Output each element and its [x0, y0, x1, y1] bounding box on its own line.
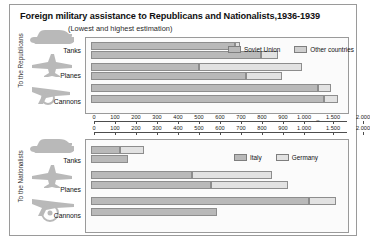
legend-swatch-other-countries: [294, 46, 307, 53]
bar-planes-high-other: [246, 72, 282, 80]
axis-tick-label: 700: [236, 114, 245, 120]
axis-tick-label: 500: [194, 125, 203, 131]
bar-cannons-high-other: [324, 95, 338, 103]
x-axis-nationalists: 0 100 200 300 400 500 600 700 800 900 1.…: [85, 126, 349, 140]
axis-tick-label: 2.000: [356, 114, 370, 120]
legend-label-soviet-union: Soviet Union: [244, 46, 280, 53]
legend-item-other-countries: Other countries: [294, 46, 354, 53]
axis-tick-label: 1.000: [297, 125, 311, 131]
legend-item-soviet-union: Soviet Union: [228, 46, 280, 53]
legend-label-germany: Germany: [292, 154, 318, 161]
bar-cannons-low-other: [318, 84, 331, 92]
legend-swatch-germany: [276, 154, 289, 161]
bar-planes-low-other: [199, 63, 302, 71]
bar-tanks-low-italy: [91, 146, 120, 154]
axis-tick-label: 500: [194, 114, 203, 120]
axis-break-mark: ≈: [316, 118, 319, 124]
bar-planes-low-italy: [91, 171, 192, 179]
bar-cannons-low-italy: [91, 197, 309, 205]
axis-tick-label: 800: [257, 114, 266, 120]
bar-cannons-low-germany: [309, 197, 336, 205]
bar-planes-high-germany: [211, 181, 288, 189]
axis-tick-label: 900: [278, 125, 287, 131]
chart-subtitle: (Lowest and highest estimation): [68, 24, 172, 33]
legend-swatch-soviet-union: [228, 46, 241, 53]
axis-tick-label: 600: [215, 125, 224, 131]
bar-tanks-high-italy: [91, 155, 128, 163]
axis-tick-label: 200: [131, 114, 140, 120]
group-label-nationalists: To the Nationalists: [17, 141, 24, 213]
category-label-cannons: Cannons: [28, 98, 81, 105]
axis-tick-label: 100: [110, 125, 119, 131]
axis-tick-label: 200: [131, 125, 140, 131]
bar-tanks-low-soviet: [91, 42, 235, 50]
axis-tick-label: 0: [92, 114, 95, 120]
category-label-cannons: Cannons: [28, 212, 81, 219]
legend-label-italy: Italy: [250, 154, 262, 161]
bar-cannons-high-italy: [91, 208, 217, 216]
axis-tick-label: 300: [152, 114, 161, 120]
axis-tick-label: 400: [173, 114, 182, 120]
axis-tick-label: 100: [110, 114, 119, 120]
legend-nationalists: Italy Germany: [234, 154, 329, 161]
bar-planes-low-germany: [192, 171, 272, 179]
axis-tick-label: 700: [236, 125, 245, 131]
legend-republicans: Soviet Union Other countries: [228, 46, 365, 53]
axis-tick-label: 1.500: [326, 114, 340, 120]
bar-planes-high-italy: [91, 181, 211, 189]
plane-icon: [30, 164, 74, 188]
axis-tick-label: 0: [92, 125, 95, 131]
axis-tick-label: 1.500: [326, 125, 340, 131]
axis-tick-label: 600: [215, 114, 224, 120]
category-label-tanks: Tanks: [28, 47, 81, 54]
axis-tick-label: 2.000: [356, 125, 370, 131]
axis-tick-label: 300: [152, 125, 161, 131]
group-label-republicans: To the Republicans: [17, 25, 24, 97]
bar-cannons-high-soviet: [91, 95, 324, 103]
axis-tick-label: 900: [278, 114, 287, 120]
axis-tick-label: 400: [173, 125, 182, 131]
page-title: Foreign military assistance to Republica…: [20, 11, 320, 21]
bar-cannons-low-soviet: [91, 84, 318, 92]
legend-item-germany: Germany: [276, 154, 318, 161]
legend-swatch-italy: [234, 154, 247, 161]
category-label-tanks: Tanks: [28, 157, 81, 164]
legend-item-italy: Italy: [234, 154, 262, 161]
tank-icon: [28, 138, 74, 158]
axis-tick-label: 1.000: [297, 114, 311, 120]
legend-label-other-countries: Other countries: [310, 46, 354, 53]
chart-figure: Foreign military assistance to Republica…: [9, 4, 357, 236]
category-label-planes: Planes: [28, 186, 81, 193]
bar-planes-high-soviet: [91, 72, 246, 80]
bar-planes-low-soviet: [91, 63, 199, 71]
tank-icon: [28, 29, 74, 49]
axis-tick-label: 800: [257, 125, 266, 131]
category-label-planes: Planes: [28, 72, 81, 79]
bar-tanks-low-germany: [120, 146, 144, 154]
